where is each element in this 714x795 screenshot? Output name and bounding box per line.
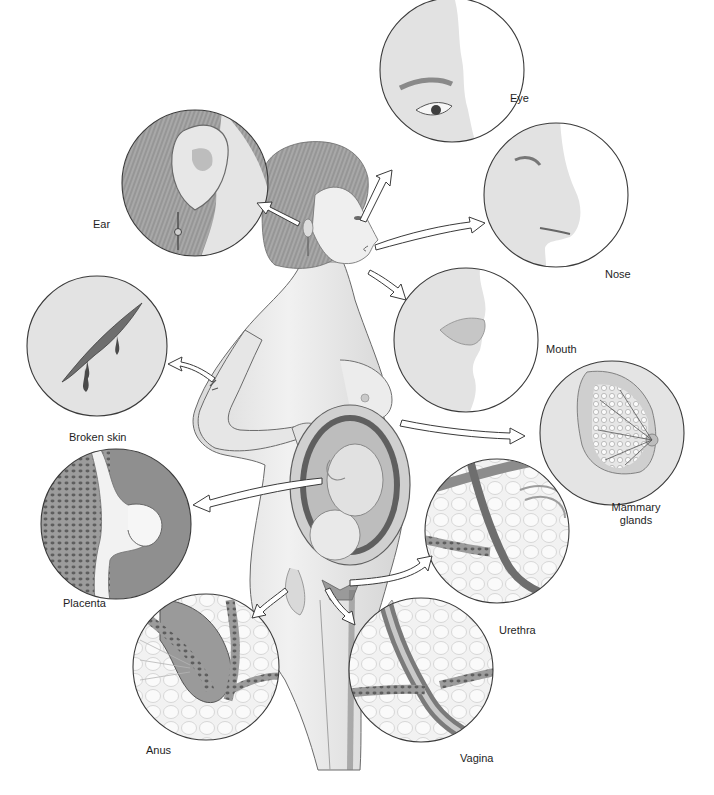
arrow-nose-icon [375, 217, 485, 250]
callout-mouth [394, 268, 538, 412]
callout-placenta [40, 448, 191, 600]
label-broken-skin: Broken skin [69, 431, 126, 444]
callout-eye [380, 0, 524, 150]
label-mammary-line2: glands [606, 514, 666, 527]
arrow-mouth-icon [368, 270, 406, 300]
figure-head [260, 142, 378, 269]
label-placenta: Placenta [63, 597, 106, 610]
callout-mammary-glands [540, 361, 684, 505]
callout-urethra [425, 459, 570, 603]
arrow-skin-icon [168, 357, 215, 382]
label-mammary-line1: Mammary [606, 501, 666, 514]
label-vagina: Vagina [460, 752, 493, 765]
anatomy-figure: Eye Nose Ear Mouth Broken skin Mammary g… [0, 0, 714, 795]
label-ear: Ear [93, 218, 110, 231]
callout-ear [122, 110, 270, 260]
label-nose: Nose [605, 268, 631, 281]
callout-nose [480, 120, 628, 280]
fetus-head [310, 510, 360, 560]
label-anus: Anus [146, 744, 171, 757]
callout-broken-skin [27, 276, 167, 416]
label-mouth: Mouth [546, 343, 577, 356]
arrow-mammary-icon [400, 420, 525, 444]
figure-ear [303, 219, 313, 237]
label-mammary-glands: Mammary glands [606, 501, 666, 527]
callout-vagina [349, 598, 495, 745]
label-eye: Eye [510, 92, 529, 105]
illustration-canvas [0, 0, 714, 795]
label-urethra: Urethra [499, 624, 536, 637]
